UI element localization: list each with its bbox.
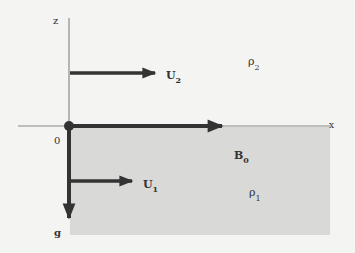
two-layer-flow-diagram: z x 0 g U2 ρ2 U1 B0 ρ1 bbox=[0, 0, 355, 253]
origin-label: 0 bbox=[54, 135, 60, 146]
diagram-canvas: z x 0 g U2 ρ2 U1 B0 ρ1 bbox=[0, 0, 355, 253]
rho2-label: ρ2 bbox=[248, 55, 260, 72]
z-axis-label: z bbox=[53, 15, 58, 26]
x-axis-label: x bbox=[329, 120, 334, 130]
gravity-label: g bbox=[54, 227, 61, 238]
u2-label: U2 bbox=[166, 69, 181, 85]
